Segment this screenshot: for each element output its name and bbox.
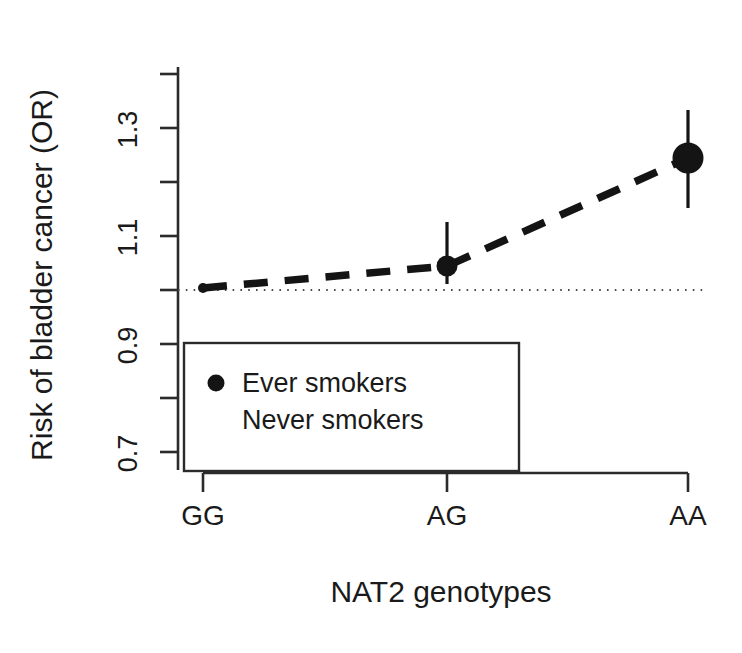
- data-point-AG: [437, 256, 458, 277]
- chart-canvas: [0, 0, 742, 653]
- data-point-AA: [673, 143, 704, 174]
- legend-marker-ever-smokers: [208, 375, 225, 392]
- y-tick-label-1-3: 1.3: [113, 100, 144, 160]
- legend-label-ever-smokers: Ever smokers: [242, 368, 407, 399]
- x-tick-label-gg: GG: [163, 500, 243, 532]
- plot-background: [0, 0, 742, 653]
- y-axis-title: Risk of bladder cancer (OR): [25, 55, 59, 495]
- x-tick-label-aa: AA: [648, 500, 728, 532]
- y-tick-label-1-1: 1.1: [113, 208, 144, 268]
- chart-figure: Risk of bladder cancer (OR) NAT2 genotyp…: [0, 0, 742, 653]
- x-axis-title: NAT2 genotypes: [161, 575, 721, 609]
- y-tick-label-0-9: 0.9: [113, 316, 144, 376]
- legend-label-never-smokers: Never smokers: [242, 405, 424, 436]
- y-tick-label-0-7: 0.7: [113, 424, 144, 484]
- data-point-GG: [198, 283, 208, 293]
- x-tick-label-ag: AG: [407, 500, 487, 532]
